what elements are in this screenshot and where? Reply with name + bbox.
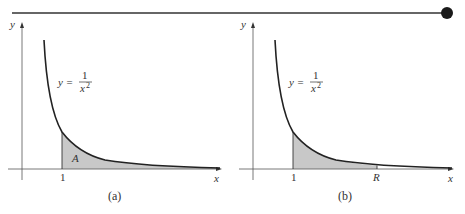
tick-R-label-b: R [372, 171, 380, 183]
panel-b: y x 1 R y = 1 x 2 (b) [239, 18, 454, 203]
equation-exp-a: 2 [86, 81, 90, 90]
y-axis-label-a: y [9, 18, 15, 30]
region-label-a: A [71, 152, 79, 164]
equation-lhs-b: y = [288, 76, 304, 88]
equation-exp-b: 2 [317, 81, 321, 90]
y-axis-label-b: y [240, 18, 246, 30]
x-axis-label-a: x [213, 172, 219, 184]
equation-den-a: x [79, 82, 85, 94]
equation-num-a: 1 [82, 69, 88, 81]
caption-a: (a) [108, 189, 121, 203]
tick-1-label-a: 1 [60, 171, 66, 183]
rule-end-dot [441, 7, 453, 19]
tick-1-label-b: 1 [291, 171, 297, 183]
y-axis-arrow-a [20, 22, 24, 28]
y-axis-arrow-b [251, 22, 255, 28]
figure-canvas: y x 1 A y = 1 x 2 (a) y x 1 R y = 1 x [0, 0, 465, 214]
equation-den-b: x [310, 82, 316, 94]
shaded-area-a [62, 132, 220, 169]
equation-lhs-a: y = [57, 76, 73, 88]
panel-a: y x 1 A y = 1 x 2 (a) [8, 18, 222, 203]
equation-num-b: 1 [313, 69, 319, 81]
x-axis-label-b: x [447, 172, 453, 184]
caption-b: (b) [338, 189, 352, 203]
